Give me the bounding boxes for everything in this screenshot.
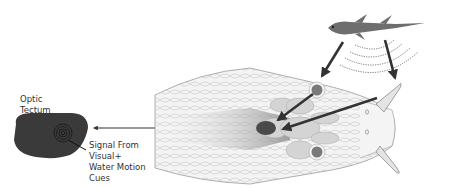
- optic-tectum: [14, 113, 88, 158]
- diagram-canvas: Optic Tectum Signal From Visual+ Water M…: [0, 0, 449, 188]
- signal-label: Signal From Visual+ Water Motion Cues: [89, 140, 146, 184]
- brain-tectum-region: [256, 121, 276, 135]
- label-line: Optic: [20, 94, 51, 105]
- optic-tectum-label: Optic Tectum: [20, 94, 51, 116]
- label-line: Tectum: [20, 105, 51, 116]
- fish: [328, 14, 425, 40]
- label-line: Visual+: [89, 151, 146, 162]
- label-line: Water Motion: [89, 162, 146, 173]
- label-line: Signal From: [89, 140, 146, 151]
- snake-head: [155, 68, 395, 184]
- label-line: Cues: [89, 173, 146, 184]
- water-ripples: [340, 40, 418, 73]
- diagram-svg: [0, 0, 449, 188]
